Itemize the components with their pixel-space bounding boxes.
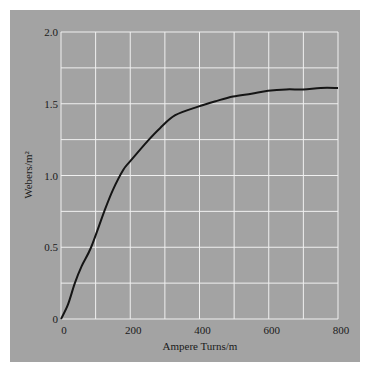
x-axis-ticks: 0200400600800: [61, 324, 350, 336]
y-tick-label: 1.0: [44, 170, 58, 182]
y-tick-label: 1.5: [44, 98, 58, 110]
x-tick-label: 0: [61, 324, 67, 336]
x-axis-label: Ampere Turns/m: [163, 340, 238, 352]
x-tick-label: 200: [125, 324, 142, 336]
x-tick-label: 600: [264, 324, 281, 336]
y-tick-label: 0: [53, 313, 59, 325]
bh-curve-chart: 00.51.01.52.0 0200400600800 Ampere Turns…: [0, 0, 370, 385]
y-axis-ticks: 00.51.01.52.0: [44, 26, 58, 325]
y-axis-label: Webers/m²: [22, 150, 34, 198]
grid-lines: [61, 32, 338, 319]
y-tick-label: 0.5: [44, 241, 58, 253]
x-tick-label: 800: [333, 324, 350, 336]
y-tick-label: 2.0: [44, 26, 58, 38]
x-tick-label: 400: [194, 324, 211, 336]
